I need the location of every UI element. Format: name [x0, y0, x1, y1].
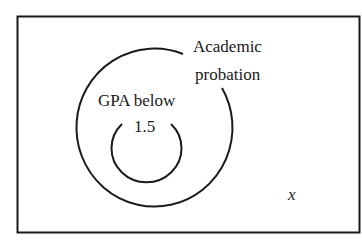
- academic-probation-label-line1: Academic: [193, 37, 262, 56]
- gpa-below-label-line2: 1.5: [134, 117, 155, 136]
- gpa-below-label-line1: GPA below: [98, 91, 176, 110]
- universe-label: x: [287, 185, 296, 204]
- venn-diagram: Academic probation GPA below 1.5 x: [0, 0, 362, 240]
- academic-probation-label-line2: probation: [195, 65, 261, 84]
- universe-rectangle: [18, 17, 360, 233]
